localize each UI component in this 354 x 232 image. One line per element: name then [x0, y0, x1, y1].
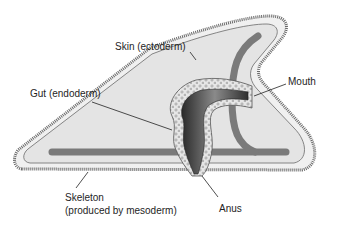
skeleton-leader — [76, 172, 88, 188]
label-mouth: Mouth — [288, 76, 316, 87]
body-outline — [0, 0, 315, 170]
label-gut-endoderm: Gut (endoderm) — [30, 88, 101, 99]
larva-diagram — [0, 0, 354, 232]
anus-leader — [202, 176, 218, 197]
label-anus: Anus — [219, 203, 242, 214]
label-skin-ectoderm: Skin (ectoderm) — [115, 41, 186, 52]
ectoderm-skin — [0, 0, 24, 70]
label-skeleton-source: (produced by mesoderm) — [65, 205, 177, 216]
label-skeleton: Skeleton — [65, 192, 104, 203]
